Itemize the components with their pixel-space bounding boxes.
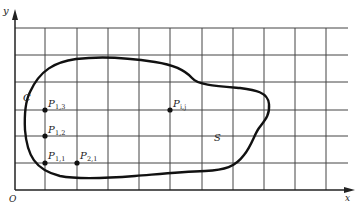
point-p11 — [42, 160, 47, 165]
point-p13 — [42, 107, 47, 112]
point-pij — [167, 107, 172, 112]
point-label-p12: P 1,2 — [47, 124, 65, 137]
y-axis-arrow-icon — [12, 9, 18, 20]
svg-text:P: P — [47, 150, 55, 161]
axes — [15, 14, 350, 190]
point-label-pij: P i,j — [172, 98, 186, 111]
grid-diagram: y x O C S P 1,3 P 1,2 P 1,1 P 2,1 P i,j — [0, 0, 358, 206]
svg-text:P: P — [79, 150, 87, 161]
point-label-p13: P 1,3 — [47, 98, 65, 111]
y-axis-label: y — [2, 5, 9, 16]
origin-label: O — [9, 194, 17, 204]
point-label-p11: P 1,1 — [47, 150, 65, 163]
x-axis-label: x — [345, 193, 350, 203]
svg-text:2,1: 2,1 — [87, 155, 97, 163]
point-label-p21: P 2,1 — [79, 150, 97, 163]
point-p21 — [74, 160, 79, 165]
curve-label: C — [23, 92, 31, 103]
svg-text:P: P — [47, 124, 55, 135]
point-p12 — [42, 133, 47, 138]
svg-text:P: P — [172, 98, 180, 109]
region-label: S — [214, 132, 221, 143]
svg-text:P: P — [47, 98, 55, 109]
svg-text:i,j: i,j — [180, 103, 186, 111]
svg-text:1,2: 1,2 — [55, 129, 65, 137]
svg-text:1,1: 1,1 — [55, 155, 65, 163]
svg-text:1,3: 1,3 — [55, 103, 65, 111]
